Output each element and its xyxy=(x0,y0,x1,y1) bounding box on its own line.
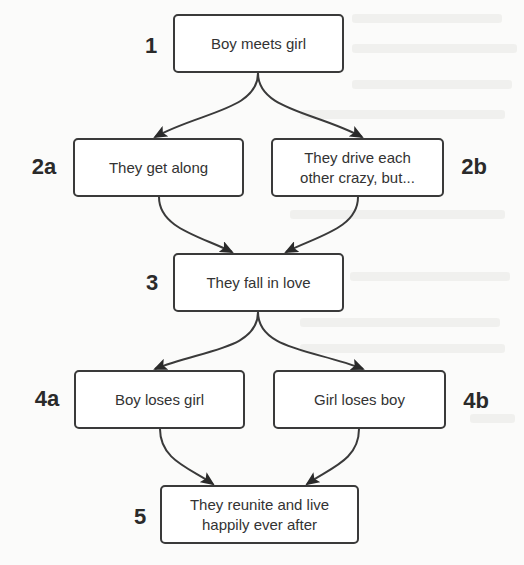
edge-1-to-2b xyxy=(258,73,362,137)
edge-2b-to-3 xyxy=(286,197,358,252)
edge-4a-to-5 xyxy=(160,429,213,484)
node-drive-each-other-crazy: They drive each other crazy, but... xyxy=(271,138,444,197)
step-label-2b: 2b xyxy=(461,154,487,180)
node-text: Girl loses boy xyxy=(314,390,405,410)
step-label-4b: 4b xyxy=(463,388,489,414)
node-text: Boy meets girl xyxy=(211,34,306,54)
step-label-3: 3 xyxy=(146,270,158,296)
edge-2a-to-3 xyxy=(159,197,232,252)
step-label-2a: 2a xyxy=(32,154,56,180)
node-text: They reunite and live happily ever after xyxy=(190,495,329,535)
node-reunite-happily-ever-after: They reunite and live happily ever after xyxy=(160,485,359,544)
node-boy-meets-girl: Boy meets girl xyxy=(173,14,344,73)
node-text: Boy loses girl xyxy=(115,390,204,410)
step-label-5: 5 xyxy=(134,504,146,530)
node-text: They drive each other crazy, but... xyxy=(300,148,415,188)
node-text: They fall in love xyxy=(206,273,310,293)
node-fall-in-love: They fall in love xyxy=(173,253,344,312)
edge-3-to-4a xyxy=(155,312,258,369)
node-text: They get along xyxy=(109,158,208,178)
step-label-4a: 4a xyxy=(35,386,59,412)
edge-1-to-2a xyxy=(155,73,258,137)
node-they-get-along: They get along xyxy=(73,138,244,197)
node-boy-loses-girl: Boy loses girl xyxy=(74,370,245,429)
edge-4b-to-5 xyxy=(307,429,359,484)
node-girl-loses-boy: Girl loses boy xyxy=(273,370,446,429)
edge-3-to-4b xyxy=(258,312,363,369)
step-label-1: 1 xyxy=(145,33,157,59)
